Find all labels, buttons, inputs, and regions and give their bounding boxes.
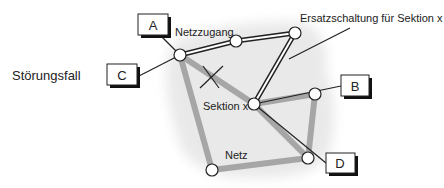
node-access bbox=[174, 49, 186, 61]
node-bottom bbox=[206, 164, 218, 176]
svg-text:B: B bbox=[351, 79, 360, 94]
endpoint-box-c: C bbox=[107, 64, 140, 88]
svg-text:C: C bbox=[117, 68, 126, 83]
node-sektion-x bbox=[248, 98, 260, 110]
network-label: Netz bbox=[225, 149, 248, 161]
endpoint-box-b: B bbox=[341, 75, 372, 99]
endpoint-box-d: D bbox=[326, 153, 358, 176]
node-top-right bbox=[289, 27, 301, 39]
section-x-label: Sektion x bbox=[203, 100, 249, 112]
failure-case-label: Störungsfall bbox=[12, 68, 81, 83]
network-failure-diagram: A C B D Störungsfall Netzzugang Ersatzsc… bbox=[0, 0, 444, 188]
replacement-circuit-label: Ersatzschaltung für Sektion x bbox=[300, 12, 443, 24]
svg-text:A: A bbox=[149, 18, 158, 33]
node-b bbox=[309, 88, 321, 100]
network-access-label: Netzzugang bbox=[175, 26, 234, 38]
node-d bbox=[302, 152, 314, 164]
endpoint-box-a: A bbox=[138, 14, 171, 38]
svg-text:D: D bbox=[335, 156, 344, 171]
